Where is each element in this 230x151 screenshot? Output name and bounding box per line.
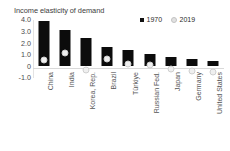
x-axis-label: Korea, Rep. <box>89 72 96 109</box>
x-axis-label-text: Russian Fed. <box>153 72 160 113</box>
y-axis-tick-label: 1.0 <box>1 51 31 58</box>
marker-2019 <box>40 57 47 64</box>
x-axis-label: Brazil <box>110 72 117 90</box>
bar-1970 <box>59 30 70 66</box>
y-axis-tick-label: 4.0 <box>1 16 31 23</box>
x-axis-label-text: Germany <box>195 72 202 101</box>
marker-2019 <box>146 61 153 68</box>
x-axis-label: China <box>47 72 54 90</box>
x-axis-label: Japan <box>174 72 181 91</box>
x-axis-label-text: Korea, Rep. <box>89 72 96 109</box>
marker-2019 <box>125 60 132 67</box>
bar-1970 <box>81 38 92 66</box>
x-axis-label-text: India <box>68 72 75 87</box>
y-axis-tick-label: 3.0 <box>1 28 31 35</box>
y-axis: 4.03.02.01.00-1.0 <box>0 0 31 151</box>
x-axis-label-text: Türkiye <box>132 72 139 95</box>
bar-1970 <box>208 61 219 66</box>
x-axis-label-text: China <box>47 72 54 90</box>
x-axis-label-text: Brazil <box>110 72 117 90</box>
x-axis-label: Türkiye <box>132 72 139 95</box>
x-axis-label: United States <box>216 72 223 114</box>
marker-2019 <box>61 49 68 56</box>
marker-2019 <box>104 56 111 63</box>
y-axis-tick-label: 2.0 <box>1 40 31 47</box>
x-axis-labels: ChinaIndiaKorea, Rep.BrazilTürkiyeRussia… <box>33 70 224 150</box>
x-axis-label: Russian Fed. <box>153 72 160 113</box>
income-elasticity-chart: Income elasticity of demand 1970 2019 4.… <box>0 0 230 151</box>
y-axis-tick-label: 0 <box>1 63 31 70</box>
x-axis-label-text: United States <box>216 72 223 114</box>
x-axis-label-text: Japan <box>174 72 181 91</box>
y-axis-tick-label: -1.0 <box>1 74 31 81</box>
bar-1970 <box>187 59 198 66</box>
x-axis-label: Germany <box>195 72 202 101</box>
x-axis-label: India <box>68 72 75 87</box>
